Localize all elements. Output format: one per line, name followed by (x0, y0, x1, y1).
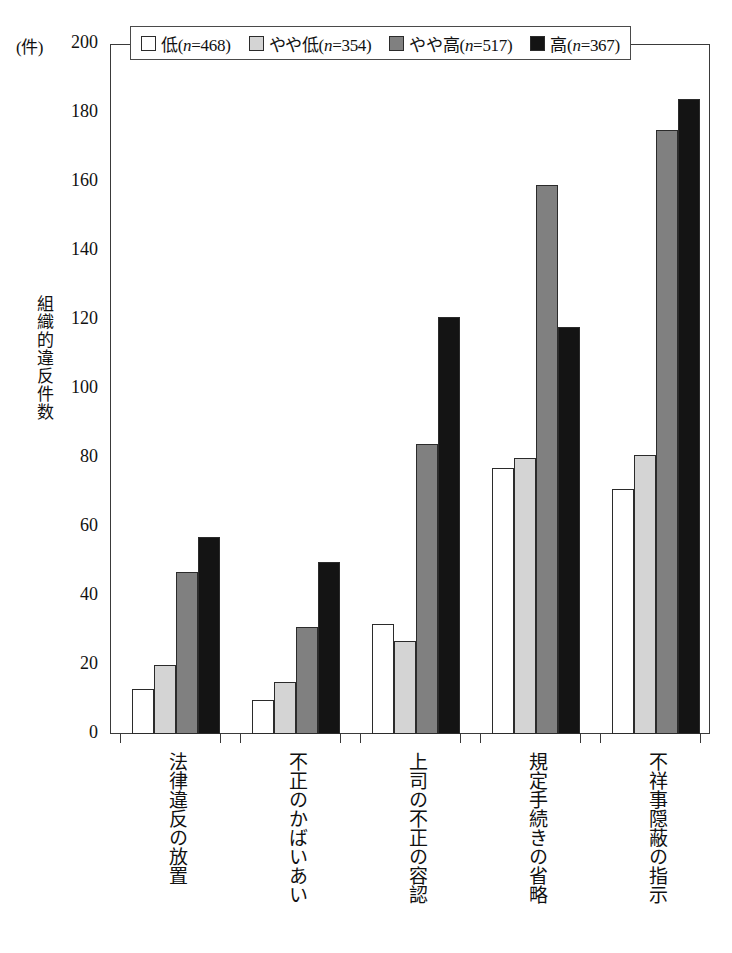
bar[interactable] (438, 317, 460, 734)
y-tick-value: 140 (71, 239, 98, 260)
x-tick-mark (240, 734, 241, 743)
bar-group (252, 44, 340, 734)
x-tick-mark (220, 734, 221, 743)
legend-label: やや高(n=517) (409, 31, 512, 56)
legend-label: やや低(n=354) (269, 31, 372, 56)
bar[interactable] (198, 537, 220, 734)
x-tick-mark (360, 734, 361, 743)
x-category-label: 不祥事隠蔽の指示 (643, 752, 669, 904)
y-tick-value: 0 (89, 722, 98, 743)
y-tick-value: 160 (71, 170, 98, 191)
y-tick-value: 80 (80, 446, 98, 467)
legend-item-high[interactable]: 高(n=367) (530, 31, 620, 56)
legend-swatch-icon (389, 36, 404, 51)
y-tick-value: 20 (80, 653, 98, 674)
legend-item-low[interactable]: 低(n=468) (141, 31, 231, 56)
legend-swatch-icon (141, 36, 156, 51)
x-category-label: 規定手続きの省略 (523, 752, 549, 904)
bar-group (372, 44, 460, 734)
x-tick-mark (460, 734, 461, 743)
bar[interactable] (372, 624, 394, 734)
bar[interactable] (176, 572, 198, 734)
x-category-label: 法律違反の放置 (163, 752, 189, 885)
bar[interactable] (252, 700, 274, 735)
bar[interactable] (132, 689, 154, 734)
legend-swatch-icon (249, 36, 264, 51)
legend-label: 低(n=468) (161, 31, 231, 56)
bar[interactable] (154, 665, 176, 734)
bar[interactable] (678, 99, 700, 734)
y-tick-value: 120 (71, 308, 98, 329)
bar[interactable] (274, 682, 296, 734)
x-tick-mark (480, 734, 481, 743)
bar[interactable] (656, 130, 678, 734)
legend-swatch-icon (530, 36, 545, 51)
bar[interactable] (558, 327, 580, 734)
bar[interactable] (394, 641, 416, 734)
bar-group (492, 44, 580, 734)
bar[interactable] (416, 444, 438, 734)
bar-chart-figure: (件) 組織的違反件数 200180160140120100806040200 … (0, 0, 732, 953)
x-tick-mark (700, 734, 701, 743)
x-tick-mark (120, 734, 121, 743)
y-tick-value: 40 (80, 584, 98, 605)
chart-legend: 低(n=468)やや低(n=354)やや高(n=517)高(n=367) (130, 26, 631, 60)
y-axis-unit-label: (件) (16, 33, 43, 58)
legend-label: 高(n=367) (550, 31, 620, 56)
bar[interactable] (492, 468, 514, 734)
bar[interactable] (536, 185, 558, 734)
bar[interactable] (296, 627, 318, 734)
y-tick-value: 180 (71, 101, 98, 122)
x-category-label: 不正のかばいあい (283, 752, 309, 904)
x-tick-mark (340, 734, 341, 743)
legend-item-somewhat-low[interactable]: やや低(n=354) (249, 31, 372, 56)
bar-group (612, 44, 700, 734)
x-tick-mark (580, 734, 581, 743)
y-tick-value: 100 (71, 377, 98, 398)
x-tick-mark (600, 734, 601, 743)
y-axis-title: 組織的違反件数 (32, 295, 56, 421)
bar[interactable] (514, 458, 536, 734)
legend-item-somewhat-high[interactable]: やや高(n=517) (389, 31, 512, 56)
bar-group (132, 44, 220, 734)
bars-layer (110, 44, 710, 734)
x-category-label: 上司の不正の容認 (403, 752, 429, 904)
bar[interactable] (318, 562, 340, 735)
y-tick-value: 60 (80, 515, 98, 536)
y-tick-value: 200 (71, 32, 98, 53)
bar[interactable] (634, 455, 656, 734)
bar[interactable] (612, 489, 634, 734)
